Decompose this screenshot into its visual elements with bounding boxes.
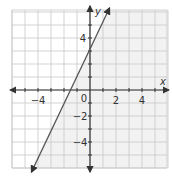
x-tick-label-4: 4 bbox=[139, 95, 145, 106]
coordinate-plane bbox=[0, 0, 172, 176]
y-axis-label: y bbox=[95, 6, 101, 17]
x-tick-label-2: 2 bbox=[113, 95, 119, 106]
y-tick-label-neg2: −2 bbox=[73, 111, 88, 122]
x-axis-label: x bbox=[160, 76, 166, 87]
origin-label: 0 bbox=[81, 93, 87, 104]
y-tick-label-neg4: −4 bbox=[73, 137, 88, 148]
shaded-region bbox=[32, 10, 168, 168]
y-tick-label-4: 4 bbox=[80, 33, 86, 44]
x-tick-label-neg4: −4 bbox=[31, 95, 46, 106]
